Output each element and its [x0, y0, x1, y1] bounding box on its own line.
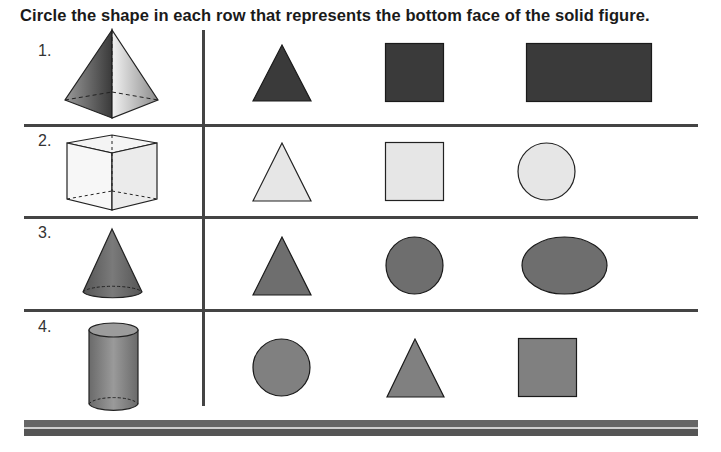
choice-triangle[interactable]	[252, 236, 312, 296]
row-divider-2	[24, 216, 698, 219]
choice-rectangle[interactable]	[526, 43, 653, 103]
choice-triangle[interactable]	[252, 142, 312, 202]
row-number: 2.	[38, 132, 51, 150]
choice-circle[interactable]	[385, 236, 445, 296]
footer-divider-bar	[24, 420, 698, 438]
cube-figure	[66, 134, 162, 212]
choice-oval[interactable]	[521, 236, 609, 296]
instruction-heading: Circle the shape in each row that repres…	[20, 6, 650, 25]
row-divider-1	[24, 124, 698, 127]
choice-square[interactable]	[518, 338, 578, 398]
cone-figure	[82, 228, 144, 302]
choice-triangle[interactable]	[252, 44, 312, 102]
row-number: 4.	[38, 318, 51, 336]
choice-square[interactable]	[385, 142, 445, 202]
choice-triangle[interactable]	[386, 338, 446, 398]
choice-square[interactable]	[385, 43, 445, 103]
square-pyramid-figure	[60, 30, 160, 122]
choice-circle[interactable]	[252, 338, 312, 398]
row-divider-3	[24, 309, 698, 312]
choice-circle[interactable]	[517, 142, 577, 202]
cylinder-figure	[88, 322, 140, 414]
row-number: 3.	[38, 224, 51, 242]
row-number: 1.	[38, 42, 51, 60]
